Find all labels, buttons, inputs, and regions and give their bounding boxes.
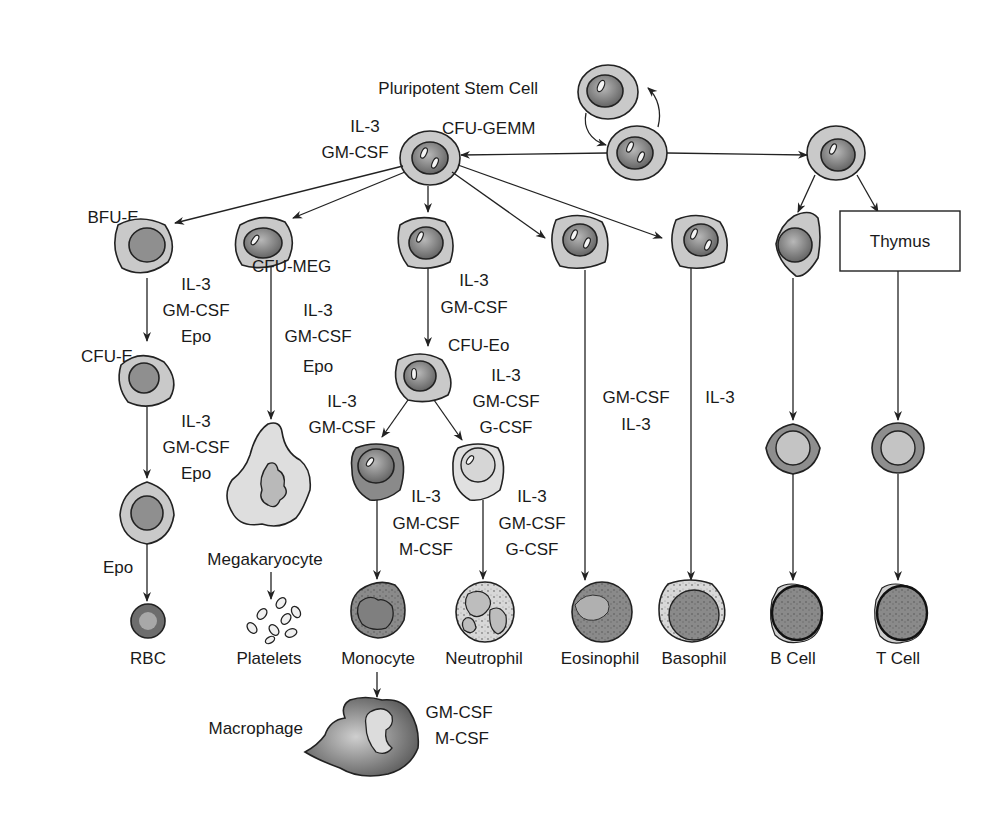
- factor-epo: Epo: [103, 558, 133, 577]
- factor-to-neut-2: GM-CSF: [472, 392, 539, 411]
- factor-cfue-1: IL-3: [181, 412, 210, 431]
- factor-eos-1: GM-CSF: [602, 388, 669, 407]
- bfu-e-cell: [115, 219, 173, 273]
- b-intermediate-cell: [766, 424, 820, 474]
- label-thymus: Thymus: [870, 232, 930, 251]
- factor-to-mono-1: IL-3: [327, 392, 356, 411]
- end-cell-neutrophil: Neutrophil: [445, 649, 523, 668]
- factor-gemm-1: IL-3: [350, 117, 379, 136]
- label-cfu-eo: CFU-Eo: [448, 336, 509, 355]
- b-progenitor-cell: [776, 212, 820, 276]
- factor-bfu-2: GM-CSF: [162, 301, 229, 320]
- monocyte-progenitor-cell: [352, 444, 404, 500]
- factor-macro-2: M-CSF: [435, 729, 489, 748]
- cfu-eo-cell: [396, 354, 451, 402]
- factor-neut-3: G-CSF: [506, 540, 559, 559]
- end-cell-rbc: RBC: [130, 649, 166, 668]
- eosinophil-cell: [572, 582, 632, 642]
- label-megakaryocyte: Megakaryocyte: [207, 550, 322, 569]
- rbc-cell: [131, 604, 165, 638]
- cfu-e-cell: [119, 356, 174, 406]
- stem-cell-top: [578, 65, 638, 119]
- basophil-progenitor-cell: [672, 215, 727, 268]
- end-cell-b-cell: B Cell: [770, 649, 815, 668]
- basophil-cell: [659, 580, 725, 642]
- factor-meg-1: IL-3: [303, 301, 332, 320]
- factor-eos-2: IL-3: [621, 415, 650, 434]
- b-cell: [771, 584, 822, 643]
- t-cell: [875, 584, 927, 643]
- label-macrophage: Macrophage: [208, 719, 303, 738]
- factor-baso: IL-3: [705, 388, 734, 407]
- end-cell-t-cell: T Cell: [876, 649, 920, 668]
- factor-macro-1: GM-CSF: [425, 703, 492, 722]
- end-cell-eosinophil: Eosinophil: [561, 649, 639, 668]
- end-cell-platelets: Platelets: [236, 649, 301, 668]
- neutrophil-progenitor-cell: [453, 444, 504, 500]
- factor-mono-2: GM-CSF: [392, 514, 459, 533]
- platelets: [245, 596, 302, 645]
- factor-cfue-3: Epo: [181, 464, 211, 483]
- stem-cell-self-renewal: [607, 126, 667, 180]
- cfu-gm-cell: [398, 218, 453, 269]
- factor-meg-2: GM-CSF: [284, 327, 351, 346]
- factor-mono-3: M-CSF: [399, 540, 453, 559]
- factor-gemm-2: GM-CSF: [321, 143, 388, 162]
- lymphoid-progenitor-cell: [807, 126, 865, 180]
- factor-neut-1: IL-3: [517, 487, 546, 506]
- factor-bfu-3: Epo: [181, 327, 211, 346]
- factor-gm-1: IL-3: [459, 271, 488, 290]
- factor-to-neut-1: IL-3: [491, 366, 520, 385]
- factor-meg-3: Epo: [303, 357, 333, 376]
- factor-gm-2: GM-CSF: [440, 298, 507, 317]
- factor-cfue-2: GM-CSF: [162, 438, 229, 457]
- neutrophil-cell: [456, 582, 514, 642]
- factor-bfu-1: IL-3: [181, 275, 210, 294]
- late-erythroid-cell: [120, 482, 174, 544]
- t-intermediate-cell: [872, 423, 924, 473]
- hematopoiesis-diagram: Pluripotent Stem Cell CFU-GEMM IL-3 GM-C…: [0, 0, 989, 821]
- end-cell-basophil: Basophil: [661, 649, 726, 668]
- cfu-gemm-cell: [400, 131, 460, 185]
- end-cell-monocyte: Monocyte: [341, 649, 415, 668]
- factor-to-neut-3: G-CSF: [480, 418, 533, 437]
- label-cfu-gemm: CFU-GEMM: [442, 119, 535, 138]
- label-pluripotent-stem-cell: Pluripotent Stem Cell: [378, 79, 538, 98]
- factor-mono-1: IL-3: [411, 487, 440, 506]
- megakaryocyte-cell: [227, 423, 310, 526]
- eosinophil-progenitor-cell: [552, 215, 608, 268]
- monocyte-cell: [351, 582, 405, 638]
- macrophage-cell: [305, 698, 418, 777]
- factor-to-mono-2: GM-CSF: [308, 418, 375, 437]
- label-cfu-meg: CFU-MEG: [252, 257, 331, 276]
- factor-neut-2: GM-CSF: [498, 514, 565, 533]
